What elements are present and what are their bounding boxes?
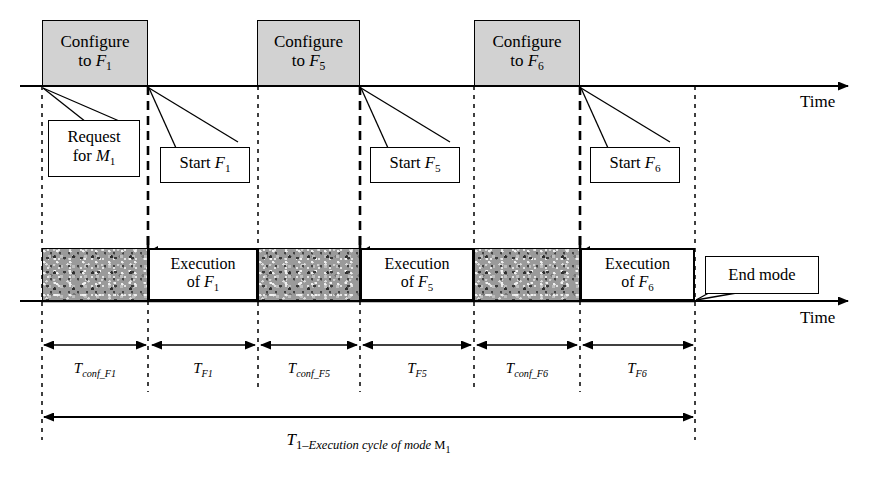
- configure-duration-block-f6: [474, 248, 580, 301]
- top-time-label: Time: [800, 92, 835, 112]
- configure-box-f1-symbol: F: [96, 51, 106, 70]
- segment-label-t-f1-sub: F1: [202, 368, 213, 379]
- callout-end-mode-text: End mode: [728, 266, 795, 285]
- callout-request-symbol: M: [96, 146, 110, 165]
- callout-request-line2-prefix: for: [73, 146, 96, 165]
- callout-request-line1: Request: [67, 127, 120, 146]
- callout-start-f5-symbol: F: [425, 153, 435, 172]
- segment-label-tconf-f5-sub: conf_F5: [296, 368, 330, 379]
- configure-box-f6[interactable]: Configure to F6: [474, 20, 580, 86]
- callout-end-mode[interactable]: End mode: [705, 256, 819, 294]
- segment-label-tconf-f1-symbol: T: [74, 360, 82, 376]
- segment-label-t-f1: TF1: [153, 360, 253, 379]
- callout-request-for-m1[interactable]: Request for M1: [48, 120, 140, 177]
- execution-box-f1-sub: 1: [214, 282, 219, 294]
- execution-box-f6[interactable]: Execution of F6: [580, 248, 695, 301]
- configure-box-f5-symbol: F: [309, 51, 319, 70]
- total-cycle-sub-symbol-sub: 1: [445, 444, 450, 455]
- configure-box-f1[interactable]: Configure to F1: [42, 20, 148, 86]
- segment-label-tconf-f1: Tconf_F1: [45, 360, 145, 379]
- execution-box-f1-symbol: F: [204, 273, 214, 290]
- execution-box-f6-line1: Execution: [605, 255, 670, 272]
- segment-label-tconf-f5-symbol: T: [288, 360, 296, 376]
- execution-box-f1[interactable]: Execution of F1: [148, 248, 258, 301]
- segment-label-tconf-f5: Tconf_F5: [259, 360, 359, 379]
- execution-box-f1-line1: Execution: [171, 255, 236, 272]
- segment-label-t-f6-symbol: T: [627, 360, 635, 376]
- configure-box-f6-line2-prefix: to: [510, 51, 527, 70]
- callout-request-sub: 1: [110, 156, 116, 168]
- execution-box-f5[interactable]: Execution of F5: [360, 248, 474, 301]
- callout-start-f1-symbol: F: [215, 153, 225, 172]
- configure-box-f6-symbol: F: [528, 51, 538, 70]
- configure-box-f1-line1: Configure: [61, 32, 130, 51]
- callout-start-f5-sub: 5: [435, 163, 441, 175]
- segment-label-t-f6-sub: F6: [636, 368, 647, 379]
- total-cycle-sub-text: Execution cycle of mode: [309, 438, 435, 452]
- bottom-time-label: Time: [800, 308, 835, 328]
- execution-box-f5-sub: 5: [428, 282, 433, 294]
- total-cycle-label: T1–Execution cycle of mode M1: [42, 430, 695, 455]
- execution-box-f5-line1: Execution: [385, 255, 450, 272]
- callout-start-f5-text: Start: [390, 153, 425, 172]
- callout-start-f1-sub: 1: [225, 163, 231, 175]
- segment-label-t-f6: TF6: [587, 360, 687, 379]
- callout-start-f6-sub: 6: [655, 163, 661, 175]
- configure-box-f5-line1: Configure: [274, 32, 343, 51]
- segment-label-tconf-f6: Tconf_F6: [477, 360, 577, 379]
- execution-box-f5-symbol: F: [418, 273, 428, 290]
- configure-duration-block-f1: [42, 248, 148, 301]
- configure-box-f6-sub: 6: [538, 61, 544, 74]
- segment-label-tconf-f6-symbol: T: [506, 360, 514, 376]
- configure-box-f1-line2-prefix: to: [78, 51, 95, 70]
- segment-label-tconf-f6-sub: conf_F6: [514, 368, 548, 379]
- segment-label-t-f5: TF5: [367, 360, 467, 379]
- execution-box-f1-line2-prefix: of: [187, 273, 204, 290]
- execution-box-f5-line2-prefix: of: [401, 273, 418, 290]
- callout-start-f6-symbol: F: [645, 153, 655, 172]
- timing-diagram: Configure to F1 Configure to F5 Configur…: [0, 0, 894, 482]
- configure-box-f5-line2-prefix: to: [292, 51, 309, 70]
- callout-start-f1[interactable]: Start F1: [160, 147, 250, 183]
- configure-box-f1-sub: 1: [106, 61, 112, 74]
- configure-box-f5[interactable]: Configure to F5: [257, 20, 360, 86]
- total-cycle-symbol: T: [287, 430, 296, 449]
- callout-start-f6-text: Start: [610, 153, 645, 172]
- execution-box-f6-symbol: F: [639, 273, 649, 290]
- callout-start-f1-text: Start: [180, 153, 215, 172]
- total-cycle-sub-prefix: 1–: [296, 438, 309, 452]
- execution-box-f6-sub: 6: [648, 282, 653, 294]
- configure-duration-block-f5: [258, 248, 360, 301]
- configure-box-f5-sub: 5: [320, 61, 326, 74]
- callout-start-f6[interactable]: Start F6: [590, 147, 680, 183]
- segment-label-tconf-f1-sub: conf_F1: [82, 368, 116, 379]
- segment-label-t-f5-sub: F5: [416, 368, 427, 379]
- total-cycle-sub-symbol: M: [434, 438, 445, 452]
- execution-box-f6-line2-prefix: of: [621, 273, 638, 290]
- callout-start-f5[interactable]: Start F5: [370, 147, 460, 183]
- segment-label-t-f5-symbol: T: [407, 360, 415, 376]
- configure-box-f6-line1: Configure: [493, 32, 562, 51]
- segment-label-t-f1-symbol: T: [193, 360, 201, 376]
